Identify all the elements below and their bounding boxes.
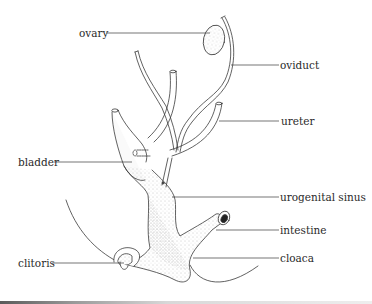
label-clitoris: clitoris [18, 257, 55, 269]
label-cloaca: cloaca [280, 252, 314, 264]
label-urogenital-sinus: urogenital sinus [280, 191, 366, 203]
label-oviduct: oviduct [280, 59, 319, 71]
urogenital-diagram: ovary oviduct ureter bladder urogenital … [0, 0, 372, 304]
ovary-shape [201, 23, 228, 57]
body-wall-right [190, 265, 258, 282]
label-ovary: ovary [79, 27, 108, 39]
body-wall-left [66, 200, 118, 262]
label-intestine: intestine [280, 224, 327, 236]
label-ureter: ureter [281, 115, 314, 127]
label-bladder: bladder [18, 156, 59, 168]
anatomy-illustration [0, 0, 372, 304]
